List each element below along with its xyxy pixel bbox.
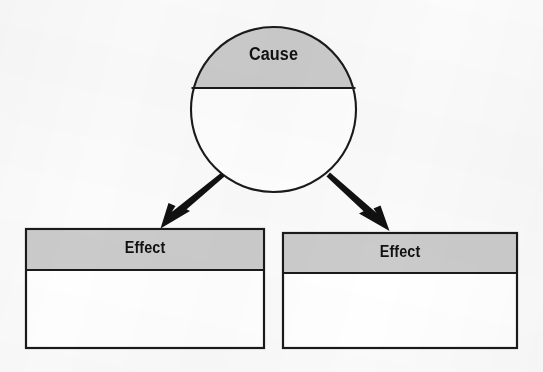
effect-label-left: Effect — [37, 238, 253, 258]
cause-label: Cause — [198, 43, 348, 65]
arrow-cause-to-effect-right — [327, 173, 390, 232]
arrow-left-shaft — [171, 173, 225, 219]
arrow-cause-to-effect-left — [161, 173, 225, 229]
effect-label-right: Effect — [294, 242, 506, 262]
diagram-canvas: Cause Effect Effect — [0, 0, 543, 372]
arrow-right-shaft — [327, 173, 380, 222]
